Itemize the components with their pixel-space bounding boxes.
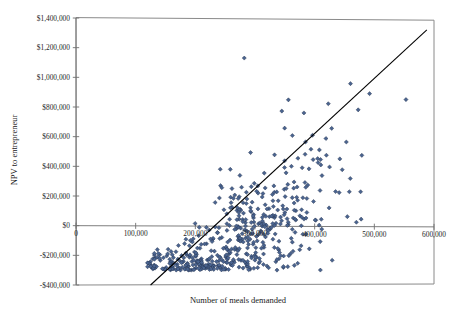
data-point — [317, 148, 321, 152]
data-point — [228, 167, 232, 171]
x-tick-label: 600,000 — [422, 230, 446, 239]
data-point — [309, 147, 313, 151]
data-point — [296, 261, 300, 265]
data-point — [249, 151, 253, 155]
data-point — [286, 98, 290, 102]
data-point — [263, 186, 267, 190]
data-point — [283, 195, 287, 199]
scatter-chart: -$400,000-$200,000$0$200,000$400,000$600… — [0, 0, 458, 320]
data-point — [311, 199, 315, 203]
data-point — [318, 268, 322, 272]
y-tick-label: $1,400,000 — [37, 14, 71, 23]
data-point — [296, 156, 300, 160]
data-point — [280, 109, 284, 113]
data-point — [359, 190, 363, 194]
data-points — [145, 56, 408, 272]
data-point — [337, 191, 341, 195]
data-point — [260, 195, 264, 199]
data-point — [301, 196, 305, 200]
data-point — [298, 248, 302, 252]
y-tick-label: $600,000 — [42, 132, 70, 141]
data-point — [183, 242, 187, 246]
data-point — [256, 266, 260, 270]
y-axis-title: NPV to entrepreneur — [9, 115, 19, 186]
data-point — [277, 239, 281, 243]
data-point — [318, 188, 322, 192]
data-point — [242, 56, 246, 60]
y-tick-label: $800,000 — [42, 103, 70, 112]
data-point — [262, 171, 266, 175]
tick-labels: -$400,000-$200,000$0$200,000$400,000$600… — [37, 14, 447, 290]
data-point — [273, 232, 277, 236]
data-point — [218, 167, 222, 171]
data-point — [155, 248, 159, 252]
data-point — [368, 92, 372, 96]
x-tick-label: 200,000 — [183, 229, 207, 238]
data-point — [307, 247, 311, 251]
data-point — [235, 253, 239, 257]
data-point — [279, 215, 283, 219]
data-point — [238, 173, 242, 177]
data-point — [299, 244, 303, 248]
data-point — [245, 246, 249, 250]
data-point — [345, 215, 349, 219]
data-point — [292, 263, 296, 267]
data-point — [227, 267, 231, 271]
y-tick-label: $200,000 — [42, 192, 70, 201]
data-point — [303, 181, 307, 185]
data-point — [338, 157, 342, 161]
data-point — [229, 201, 233, 205]
y-tick-label: $1,200,000 — [37, 43, 71, 52]
data-point — [247, 242, 251, 246]
data-point — [303, 152, 307, 156]
data-point — [193, 221, 197, 225]
data-point — [230, 187, 234, 191]
data-point — [354, 220, 358, 224]
data-point — [326, 102, 330, 106]
data-point — [348, 82, 352, 86]
data-point — [199, 242, 203, 246]
data-point — [327, 206, 331, 210]
data-point — [217, 196, 221, 200]
data-point — [299, 224, 303, 228]
data-point — [283, 126, 287, 130]
data-point — [228, 217, 232, 221]
data-point — [292, 201, 296, 205]
x-tick-label: 0 — [74, 229, 78, 238]
data-point — [174, 250, 178, 254]
data-point — [300, 166, 304, 170]
data-point — [241, 266, 245, 270]
data-point — [289, 236, 293, 240]
data-point — [328, 165, 332, 169]
y-tick-label: $400,000 — [42, 162, 70, 171]
data-point — [241, 211, 245, 215]
y-tick-label: -$200,000 — [40, 251, 70, 260]
x-tick-label: 100,000 — [124, 229, 148, 238]
data-point — [254, 246, 258, 250]
data-point — [340, 168, 344, 172]
y-tick-label: -$400,000 — [40, 281, 70, 290]
data-point — [243, 224, 247, 228]
data-point — [250, 200, 254, 204]
data-point — [318, 240, 322, 244]
data-point — [300, 208, 304, 212]
data-point — [320, 174, 324, 178]
data-point — [290, 227, 294, 231]
data-point — [271, 237, 275, 241]
data-point — [286, 182, 290, 186]
data-point — [276, 199, 280, 203]
data-point — [283, 165, 287, 169]
data-point — [209, 249, 213, 253]
data-point — [240, 185, 244, 189]
data-point — [244, 190, 248, 194]
trend-line — [151, 30, 427, 285]
data-point — [334, 190, 338, 194]
y-tick-label: $0 — [63, 221, 71, 230]
data-point — [404, 98, 408, 102]
data-point — [319, 217, 323, 221]
data-point — [272, 184, 276, 188]
data-point — [360, 153, 364, 157]
data-point — [305, 210, 309, 214]
data-point — [302, 111, 306, 115]
data-point — [261, 192, 265, 196]
